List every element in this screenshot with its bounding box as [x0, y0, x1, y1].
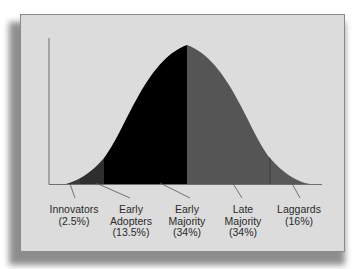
label-early-adopters: Early Adopters (13.5%) [110, 204, 152, 239]
label-early-majority: Early Majority (34%) [169, 204, 206, 239]
segment-late-majority [187, 30, 270, 190]
segment-laggards [270, 30, 315, 190]
label-laggards: Laggards (16%) [277, 204, 321, 227]
segment-early-majority [104, 30, 187, 190]
segment-early-adopters [80, 30, 104, 190]
label-late-majority: Late Majority (34%) [225, 204, 262, 239]
segment-innovators [60, 30, 80, 190]
label-innovators: Innovators (2.5%) [49, 204, 98, 227]
